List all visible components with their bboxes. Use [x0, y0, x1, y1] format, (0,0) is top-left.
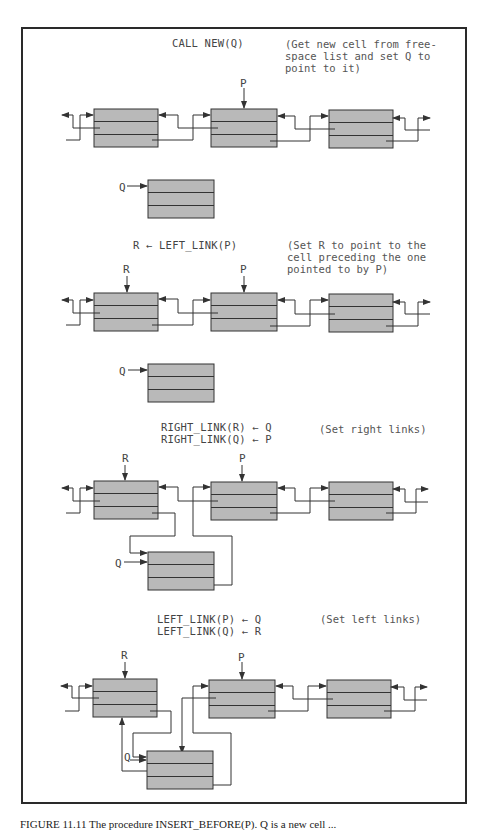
panel1-list [62, 88, 430, 218]
panel4-list [61, 662, 427, 789]
panel2-list [62, 276, 430, 402]
figure-caption: FIGURE 11.11 The procedure INSERT_BEFORE… [20, 818, 336, 830]
panel3-list [62, 465, 428, 590]
